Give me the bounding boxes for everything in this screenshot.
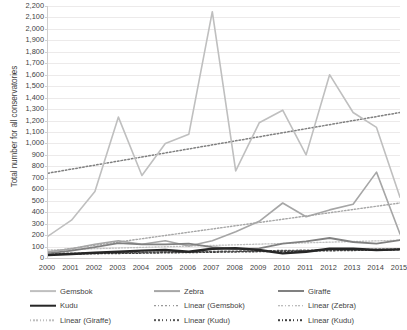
y-axis-tick-label: 1,700 [26,59,45,66]
trendline-linear-gemsbok [48,113,400,174]
x-axis-tick-label: 2009 [250,264,266,272]
axis-tick-mark [45,258,48,259]
x-axis-tick-label: 2014 [367,264,383,272]
y-axis-tick-label: 2,000 [26,25,45,32]
series-line-gemsbok [48,12,400,237]
x-axis-tick-label: 2000 [39,264,55,272]
legend-label: Linear (Giraffe) [60,316,111,325]
legend-label: Linear (Kudu) [308,316,354,325]
x-axis-tick-label: 2004 [133,264,149,272]
x-axis-tick-label: 2003 [109,264,125,272]
legend-label: Giraffe [308,287,331,296]
y-axis-tick-label: 1,100 [26,128,45,135]
legend-swatch-icon [30,288,56,295]
legend-label: Linear (Kudu) [184,316,230,325]
legend-label: Linear (Zebra) [308,301,356,310]
y-axis-tick-label: 1,800 [26,48,45,55]
legend-label: Zebra [184,287,204,296]
chart-legend: GemsbokZebraGiraffeKuduLinear (Gemsbok)L… [30,284,402,328]
legend-item[interactable]: Gemsbok [30,287,154,296]
x-axis-tick-label: 2007 [203,264,219,272]
y-axis-tick-label: 2,100 [26,13,45,20]
legend-item[interactable]: Zebra [154,287,278,296]
y-axis-tick-label: 900 [32,151,44,158]
legend-swatch-icon [30,317,56,324]
x-axis-tick-labels: 2000200120022003200420052006200720082009… [47,261,399,277]
legend-item[interactable]: Linear (Zebra) [278,301,402,310]
x-axis-tick-label: 2008 [226,264,242,272]
legend-swatch-icon [278,288,304,295]
y-axis-tick-label: 1,600 [26,71,45,78]
y-axis-tick-label: 1,900 [26,36,45,43]
x-axis-tick-label: 2013 [344,264,360,272]
legend-item[interactable]: Linear (Kudu) [278,316,402,325]
x-axis-tick-label: 2010 [273,264,289,272]
legend-swatch-icon [154,302,180,309]
y-axis-tick-labels: 01002003004005006007008009001,0001,1001,… [14,0,44,262]
legend-label: Kudu [60,301,78,310]
legend-item[interactable]: Giraffe [278,287,402,296]
legend-swatch-icon [154,288,180,295]
x-axis-tick-label: 2006 [180,264,196,272]
y-axis-tick-label: 700 [32,174,44,181]
legend-item[interactable]: Kudu [30,301,154,310]
plot-area [47,6,400,258]
y-axis-tick-label: 800 [32,162,44,169]
y-axis-tick-label: 2,200 [26,2,45,9]
legend-item[interactable]: Linear (Kudu) [154,316,278,325]
y-axis-tick-label: 300 [32,220,44,227]
y-axis-tick-label: 0 [40,254,44,261]
trendline-linear-zebra [48,203,400,252]
y-axis-tick-label: 1,300 [26,105,45,112]
y-axis-tick-label: 1,000 [26,139,45,146]
series-lines [48,6,400,258]
legend-swatch-icon [30,302,56,309]
y-axis-tick-label: 1,200 [26,117,45,124]
legend-label: Linear (Gemsbok) [184,301,245,310]
legend-item[interactable]: Linear (Giraffe) [30,316,154,325]
legend-swatch-icon [154,317,180,324]
gridline [48,258,400,259]
y-axis-tick-label: 200 [32,231,44,238]
y-axis-tick-label: 400 [32,208,44,215]
legend-label: Gemsbok [60,287,93,296]
legend-item[interactable]: Linear (Gemsbok) [154,301,278,310]
series-line-zebra [48,172,400,252]
legend-swatch-icon [278,302,304,309]
y-axis-tick-label: 1,400 [26,94,45,101]
legend-swatch-icon [278,317,304,324]
x-axis-tick-label: 2005 [156,264,172,272]
y-axis-tick-label: 1,500 [26,82,45,89]
x-axis-tick-label: 2001 [62,264,78,272]
x-axis-tick-label: 2011 [297,264,313,272]
x-axis-tick-label: 2015 [391,264,407,272]
x-axis-tick-label: 2002 [86,264,102,272]
y-axis-tick-label: 100 [32,243,44,250]
x-axis-tick-label: 2012 [320,264,336,272]
y-axis-tick-label: 500 [32,197,44,204]
y-axis-tick-label: 600 [32,185,44,192]
